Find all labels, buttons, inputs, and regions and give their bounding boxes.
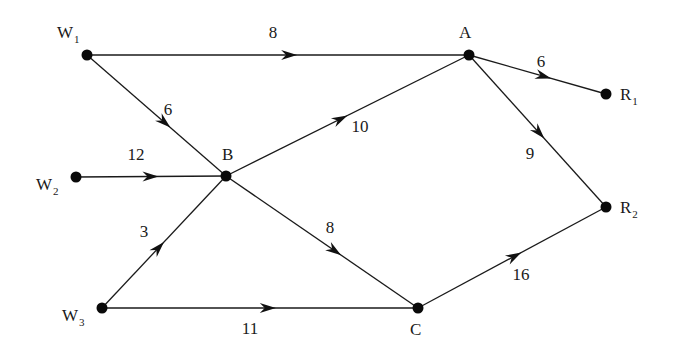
node-b-dot [221, 171, 232, 182]
edge-weight-label: 12 [128, 145, 145, 164]
edge-weight-label: 3 [140, 222, 149, 241]
edge-weight-label: 10 [352, 117, 369, 136]
edge-w1-b: 6 [87, 55, 226, 176]
edges-layer: 86123111086916 [76, 23, 606, 338]
edge-weight-label: 6 [537, 52, 546, 71]
node-b-label: B [222, 145, 233, 164]
edge-line [226, 176, 418, 308]
edge-w3-b: 3 [102, 176, 226, 308]
labels-layer: W1W2W3BACR1R2 [36, 23, 638, 339]
node-a-label: A [459, 23, 472, 42]
node-a-dot [464, 50, 475, 61]
edge-b-c: 8 [226, 176, 418, 308]
edge-weight-label: 6 [164, 100, 173, 119]
edge-b-a: 10 [226, 55, 469, 176]
node-w2-label: W2 [36, 175, 59, 197]
edge-weight-label: 9 [526, 144, 535, 163]
node-w1-label: W1 [57, 23, 80, 45]
edge-weight-label: 11 [242, 319, 258, 338]
edge-weight-label: 16 [513, 265, 530, 284]
arrowhead-icon [505, 252, 521, 264]
edge-weight-label: 8 [326, 218, 335, 237]
edge-w2-b: 12 [76, 145, 226, 182]
node-c-label: C [410, 320, 421, 339]
node-c-dot [413, 303, 424, 314]
node-r2-dot [601, 202, 612, 213]
node-w3-dot [97, 303, 108, 314]
edge-weight-label: 8 [269, 23, 278, 42]
node-w1-dot [82, 50, 93, 61]
node-r2-label: R2 [620, 198, 638, 220]
edge-line [87, 55, 226, 176]
nodes-layer [71, 50, 612, 314]
edge-w1-a: 8 [87, 23, 469, 60]
edge-c-r2: 16 [418, 207, 606, 308]
node-w3-label: W3 [62, 306, 85, 328]
node-r1-dot [601, 89, 612, 100]
node-w2-dot [71, 172, 82, 183]
arrowhead-icon [331, 116, 348, 128]
node-r1-label: R1 [620, 85, 638, 107]
edge-w3-c: 11 [102, 303, 418, 338]
edge-a-r1: 6 [469, 52, 606, 94]
network-diagram: 86123111086916 W1W2W3BACR1R2 [0, 0, 676, 356]
arrowhead-icon [325, 242, 341, 255]
